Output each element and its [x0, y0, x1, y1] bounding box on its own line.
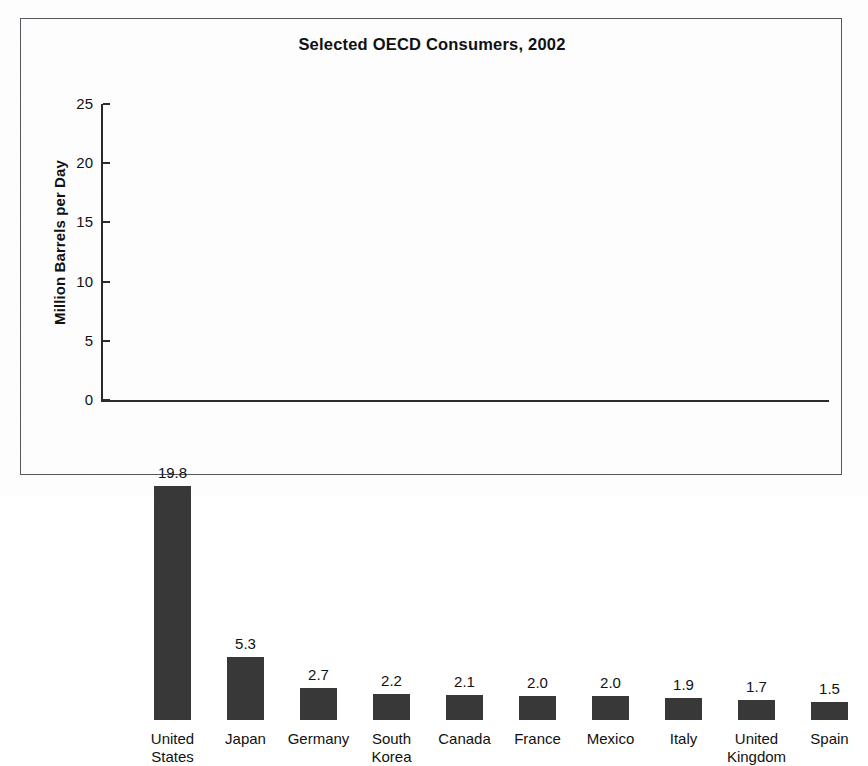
- bar-group[interactable]: 2.2SouthKorea: [355, 414, 428, 722]
- bar-group[interactable]: 2.0Mexico: [574, 414, 647, 722]
- y-tick-label: 15: [47, 213, 93, 230]
- bar-value-label: 2.0: [501, 674, 574, 691]
- bar[interactable]: [592, 696, 629, 720]
- y-tick-label: 10: [47, 273, 93, 290]
- bar[interactable]: [738, 700, 775, 720]
- bar[interactable]: [154, 486, 191, 720]
- y-tick-label: 5: [47, 332, 93, 349]
- bar-group[interactable]: 19.8UnitedStates: [136, 414, 209, 722]
- bar-value-label: 2.2: [355, 672, 428, 689]
- y-tick-label: 20: [47, 154, 93, 171]
- bar[interactable]: [300, 688, 337, 720]
- x-category-label: Spain: [787, 730, 868, 748]
- bar[interactable]: [519, 696, 556, 720]
- x-category-label-line: Spain: [787, 730, 868, 748]
- y-tick-mark: [103, 281, 110, 283]
- bar-group[interactable]: 1.7UnitedKingdom: [720, 414, 793, 722]
- bar-group[interactable]: 2.1Canada: [428, 414, 501, 722]
- bar-value-label: 5.3: [209, 635, 282, 652]
- y-tick-label: 25: [47, 95, 93, 112]
- bar-group[interactable]: 2.0France: [501, 414, 574, 722]
- bar[interactable]: [373, 694, 410, 720]
- bar[interactable]: [446, 695, 483, 720]
- bar-value-label: 1.9: [647, 676, 720, 693]
- y-tick-mark: [103, 162, 110, 164]
- y-tick-mark: [103, 103, 110, 105]
- plot-area: 0510152025 19.8UnitedStates5.3Japan2.7Ge…: [101, 94, 831, 414]
- bar-value-label: 2.0: [574, 674, 647, 691]
- x-category-label-line: Korea: [349, 748, 434, 766]
- bar-group[interactable]: 2.7Germany: [282, 414, 355, 722]
- bar-group[interactable]: 5.3Japan: [209, 414, 282, 722]
- x-axis-line: [101, 400, 829, 402]
- chart-title: Selected OECD Consumers, 2002: [21, 35, 843, 54]
- bar[interactable]: [665, 698, 702, 720]
- bar-value-label: 1.5: [793, 680, 866, 697]
- x-category-label-line: States: [130, 748, 215, 766]
- bar-value-label: 2.7: [282, 666, 355, 683]
- x-category-label-line: Kingdom: [714, 748, 799, 766]
- bar[interactable]: [227, 657, 264, 720]
- y-axis-line: [101, 104, 103, 401]
- y-tick-mark: [103, 340, 110, 342]
- chart-frame: Selected OECD Consumers, 2002 Million Ba…: [20, 18, 842, 475]
- y-tick-label: 0: [47, 391, 93, 408]
- bar-value-label: 19.8: [136, 464, 209, 481]
- y-tick-mark: [103, 221, 110, 223]
- bar[interactable]: [811, 702, 848, 720]
- bar-value-label: 1.7: [720, 678, 793, 695]
- bar-group[interactable]: 1.9Italy: [647, 414, 720, 722]
- bar-value-label: 2.1: [428, 673, 501, 690]
- y-tick-mark: [103, 399, 110, 401]
- bar-group[interactable]: 1.5Spain: [793, 414, 866, 722]
